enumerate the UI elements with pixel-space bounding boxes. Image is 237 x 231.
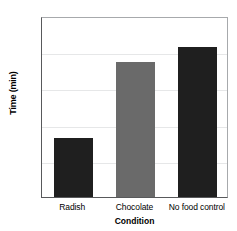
- bar-chart: Time (min) 0 5 10 15 20 25 Radish Chocol…: [0, 0, 237, 231]
- bar: [116, 62, 155, 197]
- x-axis-title: Condition: [41, 216, 228, 226]
- bar-series: [42, 18, 227, 197]
- x-tick-label: No food control: [157, 202, 237, 212]
- bar: [178, 47, 217, 197]
- plot-area: [41, 17, 228, 198]
- bar: [54, 138, 93, 197]
